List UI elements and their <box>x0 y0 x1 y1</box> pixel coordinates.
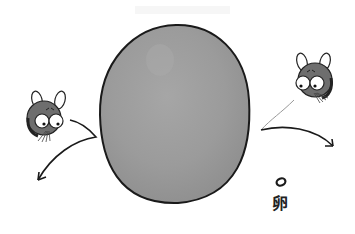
illustration-canvas: 卵 <box>0 0 355 234</box>
left-rabbit-icon <box>27 90 67 142</box>
right-rabbit-icon <box>295 52 332 103</box>
ring-icon <box>276 177 287 187</box>
egg-label: 卵 <box>272 196 288 212</box>
right-curved-arrow-icon <box>261 100 333 146</box>
faint-bleed-text <box>135 6 230 14</box>
egg-oval <box>100 25 249 203</box>
